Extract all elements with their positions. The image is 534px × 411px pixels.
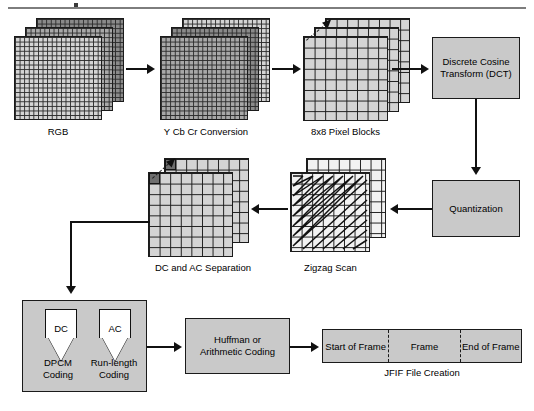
arrow-rgb-to-ycbcr-line bbox=[126, 68, 148, 70]
jfif-file-bar[interactable]: Start of Frame Frame End of Frame bbox=[322, 329, 522, 363]
dpcm-line-2: Coding bbox=[27, 369, 89, 381]
separation-label: DC and AC Separation bbox=[128, 262, 278, 273]
dct-line-1: Discrete Cosine bbox=[440, 56, 511, 68]
huffman-line-2: Arithmetic Coding bbox=[200, 346, 275, 358]
arrow-rgb-to-ycbcr-head bbox=[147, 64, 155, 74]
arrow-dct-to-quantization-line bbox=[475, 99, 477, 169]
arrow-coding-to-jfif-head bbox=[311, 342, 319, 352]
arrow-entropy-to-coding-head bbox=[174, 342, 182, 352]
separation-plane-front bbox=[148, 172, 233, 257]
rle-line-1: Run-length bbox=[83, 357, 145, 369]
jfif-segment-frame: Frame bbox=[388, 330, 459, 362]
run-length-coding-label: Run-length Coding bbox=[83, 357, 145, 381]
connector-separation-to-entropy-horizontal bbox=[70, 221, 150, 223]
zigzag-label: Zigzag Scan bbox=[278, 262, 383, 273]
dc-funnel: DC bbox=[45, 309, 77, 355]
dct-line-2: Transform (DCT) bbox=[440, 68, 511, 80]
jfif-segment-end-of-frame: End of Frame bbox=[460, 330, 521, 362]
jfif-label: JFIF File Creation bbox=[322, 367, 522, 378]
dct-box-text: Discrete Cosine Transform (DCT) bbox=[440, 56, 511, 80]
pixel-blocks-stack bbox=[303, 18, 415, 122]
dc-funnel-label: DC bbox=[45, 323, 77, 335]
arrow-coding-to-jfif-line bbox=[290, 346, 312, 348]
huffman-coding-box[interactable]: Huffman or Arithmetic Coding bbox=[185, 318, 290, 374]
quantization-label: Quantization bbox=[449, 203, 502, 215]
ac-funnel-label: AC bbox=[99, 323, 131, 335]
header-divider bbox=[8, 7, 526, 9]
arrow-quantization-to-zigzag-line bbox=[392, 208, 432, 210]
dpcm-coding-label: DPCM Coding bbox=[27, 357, 89, 381]
arrow-blocks-to-dct-head bbox=[421, 64, 429, 74]
ycbcr-plane-front bbox=[160, 36, 248, 120]
rle-line-2: Coding bbox=[83, 369, 145, 381]
zigzag-scan-path bbox=[290, 172, 370, 252]
zigzag-scan-stack bbox=[290, 158, 395, 258]
arrow-blocks-to-dct-line bbox=[392, 68, 422, 70]
connector-separation-to-entropy-head bbox=[66, 286, 76, 294]
rgb-plane-front bbox=[14, 36, 102, 120]
header-divider-mark bbox=[74, 3, 78, 7]
dct-box[interactable]: Discrete Cosine Transform (DCT) bbox=[432, 37, 520, 99]
rgb-label: RGB bbox=[14, 126, 102, 137]
arrow-ycbcr-to-blocks-head bbox=[293, 64, 301, 74]
quantization-box[interactable]: Quantization bbox=[432, 180, 520, 237]
huffman-line-1: Huffman or bbox=[200, 334, 275, 346]
huffman-box-text: Huffman or Arithmetic Coding bbox=[200, 334, 275, 358]
entropy-coding-box[interactable]: DC AC DPCM Coding Run-length Coding bbox=[22, 300, 147, 392]
connector-separation-to-entropy-vertical bbox=[70, 221, 72, 288]
pixel-blocks-label: 8x8 Pixel Blocks bbox=[283, 126, 408, 137]
jfif-segment-start-of-frame: Start of Frame bbox=[323, 330, 388, 362]
pixel-blocks-plane-front bbox=[303, 36, 388, 121]
dc-ac-separation-stack bbox=[148, 158, 258, 258]
dpcm-line-1: DPCM bbox=[27, 357, 89, 369]
arrow-dct-to-quantization-head bbox=[471, 167, 481, 175]
arrow-ycbcr-to-blocks-line bbox=[272, 68, 294, 70]
jpeg-pipeline-diagram: RGB Y Cb Cr Conversion 8x8 Pixel Blocks … bbox=[0, 0, 534, 411]
rgb-plane-stack bbox=[14, 18, 126, 122]
ycbcr-label: Y Cb Cr Conversion bbox=[136, 126, 276, 137]
ac-funnel: AC bbox=[99, 309, 131, 355]
ycbcr-plane-stack bbox=[160, 18, 272, 122]
arrow-entropy-to-coding-line bbox=[147, 346, 175, 348]
